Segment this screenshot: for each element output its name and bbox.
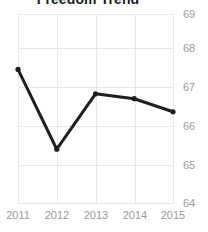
y-tick-label: 65 (183, 160, 205, 171)
y-tick-label: 64 (183, 198, 205, 209)
y-tick-label: 66 (183, 121, 205, 132)
y-tick-label: 68 (183, 43, 205, 54)
data-point (93, 91, 98, 96)
data-point (54, 147, 59, 152)
x-tick-label: 2014 (115, 209, 155, 221)
series-markers (15, 67, 175, 152)
chart-title: Freedom Trend (0, 0, 176, 7)
series-freedom-score (18, 14, 173, 203)
line-chart: Freedom Trend 69 68 67 66 65 64 2011 201… (0, 0, 208, 232)
y-tick-label: 67 (183, 82, 205, 93)
y-tick-label: 69 (183, 9, 205, 20)
x-tick-label: 2011 (0, 209, 38, 221)
data-point (132, 96, 137, 101)
series-line (18, 69, 173, 149)
x-tick-label: 2013 (76, 209, 116, 221)
x-tick-label: 2012 (37, 209, 77, 221)
plot-area (18, 14, 173, 203)
gridline-y-64 (18, 203, 173, 204)
data-point (170, 109, 175, 114)
gridline-x-2015 (173, 14, 174, 203)
x-tick-label: 2015 (153, 209, 193, 221)
data-point (15, 67, 20, 72)
